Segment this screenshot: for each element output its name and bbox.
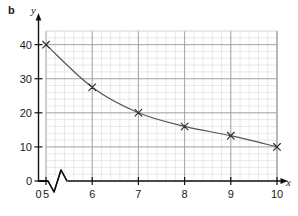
chart-figure: b y x 01020304005678910	[0, 0, 298, 216]
y-tick-label: 30	[20, 73, 32, 85]
x-tick-label: 7	[135, 188, 141, 200]
x-tick-label: 10	[271, 188, 283, 200]
minor-gridlines	[46, 31, 277, 181]
axis-tick-marks	[35, 45, 278, 185]
y-tick-label: 0	[26, 175, 32, 187]
y-tick-label: 10	[20, 141, 32, 153]
x-tick-label: 0	[35, 188, 41, 200]
y-tick-label: 20	[20, 107, 32, 119]
x-tick-label: 5	[43, 188, 49, 200]
x-tick-label: 8	[182, 188, 188, 200]
x-tick-label: 6	[89, 188, 95, 200]
data-curve	[46, 45, 277, 147]
x-tick-label: 9	[228, 188, 234, 200]
plot-canvas	[0, 0, 298, 216]
y-tick-label: 40	[20, 39, 32, 51]
data-point-markers	[43, 41, 281, 150]
